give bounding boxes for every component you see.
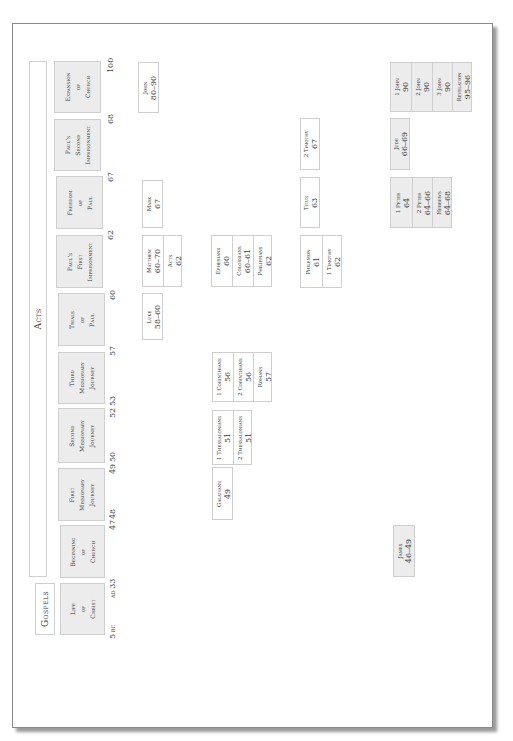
book-group-johannine: 1 John90 2 John90 3 John90 Revelation95–…	[390, 62, 472, 112]
period-line: of	[78, 537, 88, 566]
period-line: Paul	[85, 190, 95, 215]
period-line: Imprisonment	[85, 242, 95, 281]
period-line: First	[75, 242, 85, 281]
book-group-matthew-acts: Matthew60–70 Acts62	[142, 235, 182, 287]
tick-67: 67	[106, 172, 115, 182]
book-1-john: 1 John90	[391, 63, 411, 111]
book-james: James46–49	[393, 525, 415, 577]
book-date: 67	[152, 197, 161, 212]
tick-53: 53	[108, 396, 117, 406]
period-line: Beginning	[68, 537, 78, 566]
book-john: John80–90	[138, 62, 159, 113]
book-group-corinthians-romans: 1 Corinthians56 2 Corinthians56 Romans57	[212, 352, 272, 402]
tick-5bc: 5 BC	[108, 625, 117, 639]
period-line: Imprisonment	[83, 126, 93, 165]
period-line: Paul's	[63, 126, 73, 165]
book-name: Jude	[393, 138, 399, 150]
period-pauls-first-imprisonment: Paul'sFirstImprisonment	[56, 235, 103, 288]
period-line: Journey	[87, 479, 97, 511]
tick-47: 47	[108, 520, 117, 530]
period-line: Journey	[87, 362, 97, 394]
book-date: 80–90	[148, 75, 157, 99]
period-second-missionary-journey: SecondMissionaryJourney	[58, 408, 105, 463]
book-name: Luke	[145, 310, 151, 323]
book-1-peter: 1 Peter64	[391, 178, 412, 227]
period-line: Second	[67, 420, 77, 452]
book-hebrews: Hebrews64–68	[432, 178, 453, 227]
book-2-john: 2 John90	[411, 63, 432, 111]
book-date: 63	[310, 195, 319, 209]
book-2-corinthians: 2 Corinthians56	[233, 353, 253, 401]
book-date: 49	[222, 481, 231, 507]
book-date: 67	[310, 131, 319, 158]
period-life-of-christ: LifeofChrist	[60, 583, 105, 635]
book-1-timothy: 1 Timothy62	[322, 236, 343, 287]
book-3-john: 3 John90	[432, 63, 452, 111]
period-line: First	[67, 479, 77, 511]
period-line: Freedom	[65, 190, 75, 215]
book-date: 58–60	[152, 304, 161, 328]
book-group-peter-hebrews: 1 Peter64 2 Peter64–66 Hebrews64–68	[390, 177, 452, 228]
book-group-prison-epistles: Ephesians60 Colossians60–61 Philippians6…	[211, 235, 272, 287]
period-line: Missionary	[77, 420, 87, 452]
book-group-philemon-1-timothy: Philemon61 1 Timothy62	[300, 235, 342, 288]
book-acts: Acts62	[163, 236, 183, 286]
gospels-strip: Gospels	[35, 583, 55, 635]
period-expansion-of-church: ExpansionofChurch	[54, 61, 101, 113]
book-1-corinthians: 1 Corinthians56	[213, 353, 233, 401]
period-line: of	[78, 599, 88, 618]
period-line: of	[77, 310, 87, 328]
period-first-missionary-journey: FirstMissionaryJourney	[58, 468, 105, 521]
tick-68: 68	[106, 114, 115, 124]
book-name: John	[141, 81, 147, 93]
book-jude: Jude66–69	[390, 118, 410, 170]
period-third-missionary-journey: ThirdMissionaryJourney	[58, 352, 105, 404]
tick-ad33: AD 33	[108, 579, 117, 598]
tick-50: 50	[108, 452, 117, 462]
period-line: Paul's	[65, 242, 75, 281]
book-name: Titus	[303, 195, 309, 209]
book-group-thessalonians: 1 Thessalonians51 2 Thessalonians51	[212, 410, 252, 465]
period-line: Life	[68, 599, 78, 618]
book-date: 46–49	[404, 539, 413, 563]
period-line: Second	[73, 126, 83, 165]
tick-62: 62	[106, 230, 115, 240]
gospels-label: Gospels	[40, 591, 50, 627]
tick-48: 48	[108, 509, 117, 519]
book-ephesians: Ephesians60	[212, 236, 232, 286]
book-philemon: Philemon61	[301, 236, 322, 287]
book-name: Galatians	[215, 481, 221, 507]
book-galatians: Galatians49	[212, 467, 233, 520]
book-2-timothy: 2 Timothy67	[300, 118, 320, 170]
period-line: Third	[67, 362, 77, 394]
tick-57: 57	[108, 346, 117, 356]
period-line: Journey	[87, 420, 97, 452]
book-revelation: Revelation95–96	[452, 63, 473, 111]
period-line: Missionary	[77, 362, 87, 394]
period-line: Expansion	[63, 73, 73, 102]
period-line: Trials	[67, 310, 77, 328]
book-name: Mark	[145, 197, 151, 212]
period-line: of	[75, 190, 85, 215]
book-2-peter: 2 Peter64–66	[412, 178, 432, 227]
period-beginning-of-church: BeginningofChurch	[60, 525, 105, 578]
book-2-thessalonians: 2 Thessalonians51	[233, 411, 253, 464]
book-romans: Romans57	[253, 353, 273, 401]
book-date: 66–69	[400, 132, 409, 156]
period-line: Church	[83, 73, 93, 102]
tick-100: 100	[106, 58, 115, 73]
acts-strip: Acts	[29, 61, 47, 577]
tick-60: 60	[108, 290, 117, 300]
period-pauls-second-imprisonment: Paul'sSecondImprisonment	[54, 119, 101, 171]
period-line: Church	[88, 537, 98, 566]
period-trials-of-paul: TrialsofPaul	[58, 293, 105, 346]
book-philippians: Philippians62	[253, 236, 273, 286]
book-name: James	[397, 544, 403, 559]
book-name: 2 Timothy	[303, 131, 309, 158]
book-titus: Titus63	[300, 177, 320, 228]
book-matthew: Matthew60–70	[143, 236, 163, 286]
period-freedom-of-paul: FreedomofPaul	[56, 176, 103, 229]
book-mark: Mark67	[142, 180, 163, 228]
period-line: Christ	[88, 599, 98, 618]
tick-49: 49	[108, 464, 117, 474]
